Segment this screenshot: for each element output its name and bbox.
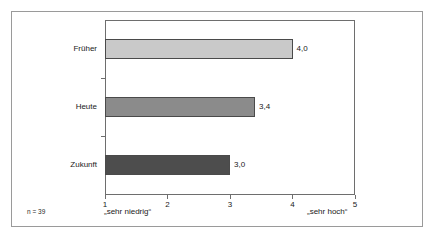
x-axis-tick	[355, 195, 356, 199]
scale-anchor-low: „sehr niedrig“	[104, 208, 151, 216]
x-axis-tick-label: 2	[148, 201, 188, 209]
bar-heute[interactable]	[105, 97, 255, 117]
bars-layer	[105, 20, 355, 195]
chart-figure: 4,0 3,4 3,0 Früher Heute Zukunft 12345 „…	[0, 0, 436, 239]
x-axis-tick	[230, 195, 231, 199]
category-label-zukunft: Zukunft	[70, 161, 97, 169]
bar-zukunft[interactable]	[105, 155, 230, 175]
x-axis-tick	[292, 195, 293, 199]
bar-frueher[interactable]	[105, 39, 293, 59]
x-axis-tick	[167, 195, 168, 199]
x-axis-tick-label: 3	[210, 201, 250, 209]
category-label-heute: Heute	[76, 103, 97, 111]
scale-anchor-high: „sehr hoch“	[307, 208, 347, 216]
x-axis-tick	[105, 195, 106, 199]
bar-value-frueher: 4,0	[297, 45, 308, 53]
category-label-frueher: Früher	[73, 45, 97, 53]
bar-value-heute: 3,4	[259, 103, 270, 111]
bar-value-zukunft: 3,0	[234, 161, 245, 169]
sample-size-note: n = 39	[27, 209, 45, 216]
